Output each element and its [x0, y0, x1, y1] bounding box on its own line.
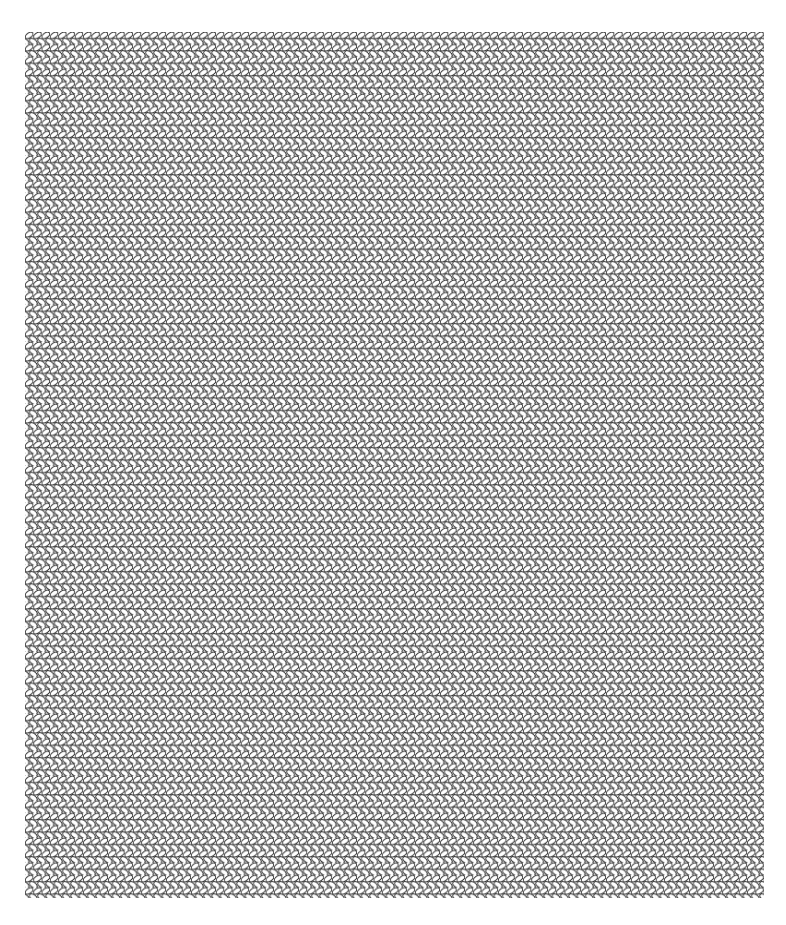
- knit-fabric: [25, 32, 764, 898]
- knit-pattern: [0, 0, 786, 925]
